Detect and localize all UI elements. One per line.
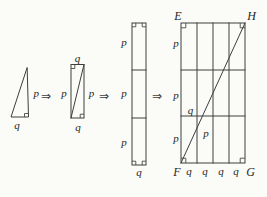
right-angle-mark bbox=[240, 158, 245, 163]
grid-corner-G: G bbox=[246, 165, 255, 179]
right-angle-mark bbox=[181, 23, 186, 28]
grid-rectangle-EFGH: E H F G p p p q q q q q p bbox=[172, 9, 257, 179]
grid-corner-E: E bbox=[173, 9, 182, 23]
right-angle-mark bbox=[142, 161, 146, 165]
grid-column-label: q bbox=[202, 165, 208, 177]
right-angle-mark bbox=[71, 65, 75, 69]
grid-diagonal-rise-label: p bbox=[202, 127, 209, 139]
implies-arrow-icon: ⇒ bbox=[152, 89, 162, 103]
implies-arrow-icon: ⇒ bbox=[41, 89, 51, 103]
grid-row-label: p bbox=[172, 132, 179, 144]
grid-row-label: p bbox=[172, 37, 179, 49]
grid-row-label: p bbox=[172, 89, 179, 101]
right-angle-mark bbox=[142, 23, 146, 27]
strip-outline bbox=[132, 23, 146, 165]
triangle-outline bbox=[11, 68, 28, 117]
right-angle-mark bbox=[132, 23, 136, 27]
grid-corner-H: H bbox=[246, 9, 257, 23]
grid-corner-F: F bbox=[172, 165, 181, 179]
small-rect-bottom-label: q bbox=[75, 121, 81, 133]
small-rect-top-label: q bbox=[75, 52, 81, 64]
strip-bottom-label: q bbox=[136, 166, 142, 178]
grid-diagonal-run-label: q bbox=[188, 104, 194, 116]
implies-arrow-icon: ⇒ bbox=[99, 89, 109, 103]
strip-section-label: p bbox=[120, 87, 127, 99]
small-rect-diagonal bbox=[71, 65, 84, 119]
strip-section-label: p bbox=[120, 36, 127, 48]
grid-column-label: q bbox=[233, 165, 239, 177]
strip-section-label: p bbox=[120, 136, 127, 148]
stacked-strip: p p p q bbox=[120, 23, 146, 178]
grid-column-label: q bbox=[218, 165, 224, 177]
figure-canvas: p q ⇒ q p p q ⇒ p p p q ⇒ bbox=[0, 0, 267, 197]
right-angle-mark bbox=[80, 114, 84, 118]
right-triangle: p q bbox=[11, 68, 40, 131]
grid-column-label: q bbox=[186, 165, 192, 177]
triangle-base-label: q bbox=[14, 119, 20, 131]
triangle-side-label: p bbox=[33, 87, 40, 99]
small-rect-left-label: p bbox=[60, 87, 67, 99]
rect-with-diagonal: q p p q bbox=[60, 52, 95, 133]
small-rect-right-label: p bbox=[88, 87, 95, 99]
right-angle-mark bbox=[132, 161, 136, 165]
